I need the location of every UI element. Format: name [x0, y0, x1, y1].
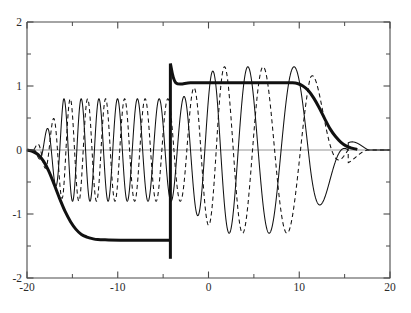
chart-plot: -20-1001020210-1-2 — [0, 0, 411, 313]
y-tick-label: -2 — [12, 272, 22, 284]
x-tick-label: 10 — [294, 281, 306, 293]
chart-background — [0, 0, 411, 313]
x-tick-label: 20 — [384, 281, 396, 293]
y-tick-label: 1 — [16, 80, 22, 92]
y-tick-label: -1 — [12, 208, 22, 220]
x-tick-label: 0 — [206, 281, 212, 293]
figure-container: -20-1001020210-1-2 — [0, 0, 411, 313]
x-tick-label: -10 — [110, 281, 126, 293]
y-tick-label: 2 — [16, 16, 22, 28]
y-tick-label: 0 — [16, 144, 22, 156]
